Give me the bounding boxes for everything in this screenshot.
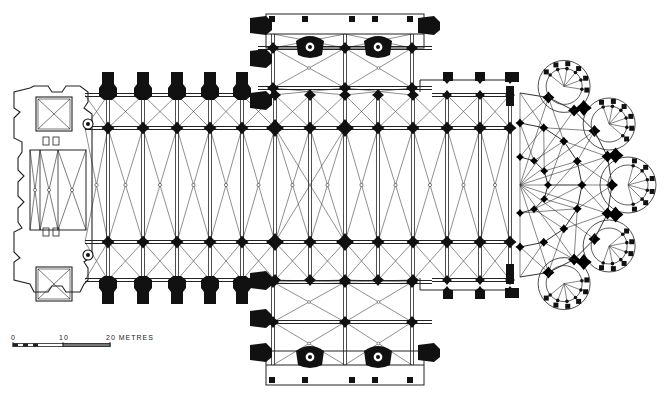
scale-label-0: 0 (11, 334, 16, 341)
transept-buttress (418, 343, 440, 362)
west-front-towers (14, 86, 93, 301)
pier (559, 137, 568, 146)
pier (336, 233, 354, 251)
pier (339, 276, 351, 288)
buttress-north (168, 72, 186, 100)
buttress-north (99, 72, 117, 100)
pier (406, 42, 418, 54)
pier (504, 122, 517, 135)
buttress-south (99, 276, 117, 304)
pier (204, 236, 217, 249)
pier (573, 204, 582, 213)
scale-label-20-metres: 20 METRES (106, 334, 154, 341)
pier (406, 316, 418, 328)
pier (539, 238, 548, 247)
transept-buttress (250, 309, 272, 328)
transept-buttress (250, 49, 272, 68)
pier (339, 42, 351, 54)
pier (406, 82, 418, 94)
pier (339, 82, 351, 94)
pier (266, 233, 284, 251)
walls (85, 14, 512, 385)
pier (504, 236, 517, 249)
buttresses (99, 16, 519, 383)
transept-buttress (418, 16, 440, 35)
transept-buttress (250, 91, 272, 110)
piers (102, 42, 517, 328)
cathedral-floor-plan (0, 0, 667, 396)
scale-label-10: 10 (59, 334, 69, 341)
pier (339, 316, 351, 328)
transept-buttress (250, 343, 272, 362)
buttress-north (201, 72, 219, 100)
pier (559, 224, 568, 233)
buttress-south (201, 276, 219, 304)
buttress-south (168, 276, 186, 304)
buttress-north (233, 72, 251, 100)
pier (516, 153, 524, 161)
pier (516, 209, 524, 217)
transept-buttress (250, 16, 272, 35)
transept-buttress (250, 271, 272, 290)
buttress-south (233, 276, 251, 304)
pier (474, 236, 487, 249)
pier (576, 254, 592, 270)
scale-bar (13, 342, 110, 347)
buttress-north (134, 72, 152, 100)
buttress-south (134, 276, 152, 304)
pier (542, 92, 554, 104)
pier (171, 236, 184, 249)
pier (236, 236, 249, 249)
pier (441, 236, 454, 249)
pier (542, 266, 554, 278)
pier (475, 275, 485, 285)
pier (539, 123, 548, 132)
chevet-radiating-chapels (506, 60, 656, 309)
pier (544, 181, 552, 189)
pier (576, 100, 592, 116)
